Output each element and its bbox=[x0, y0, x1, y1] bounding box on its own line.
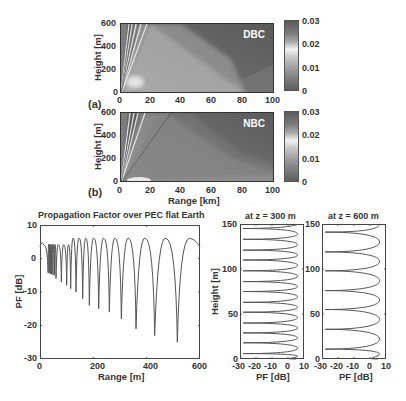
y-tick-pf: -20 bbox=[24, 320, 37, 330]
x-tick-a: 40 bbox=[175, 95, 185, 105]
colorbar-a-tick: 0 bbox=[302, 86, 307, 96]
y-tick-a: 400 bbox=[101, 41, 116, 51]
y-axis-label-b: Height [m] bbox=[92, 117, 103, 177]
pf-range-curve bbox=[40, 225, 200, 359]
x-axis-label-z600: PF [dB] bbox=[339, 371, 373, 382]
y-axis-label-pf: PF [dB] bbox=[13, 270, 24, 314]
colorbar-a bbox=[284, 20, 299, 91]
x-tick-pf: 0 bbox=[37, 361, 42, 371]
y-axis-label-z300: Height [m] bbox=[209, 262, 220, 322]
y-tick-z300: 100 bbox=[222, 264, 237, 274]
x-tick-b: 0 bbox=[117, 185, 122, 195]
x-tick-a: 20 bbox=[145, 95, 155, 105]
chart-title-z600: at z = 600 m bbox=[328, 211, 379, 221]
x-tick-a: 100 bbox=[265, 95, 280, 105]
colorbar-b-tick: 0 bbox=[302, 177, 307, 187]
x-tick-a: 0 bbox=[117, 95, 122, 105]
colorbar-b-tick: 0.03 bbox=[302, 107, 320, 117]
y-axis-label-a: Height [m] bbox=[92, 28, 103, 88]
y-tick-pf: -30 bbox=[24, 353, 37, 363]
y-tick-z300: 50 bbox=[228, 309, 238, 319]
panel-label-b: (b) bbox=[88, 186, 102, 198]
x-tick-z600: -10 bbox=[346, 361, 359, 371]
x-tick-z600: 10 bbox=[381, 361, 391, 371]
x-tick-pf: 400 bbox=[143, 361, 158, 371]
x-tick-pf: 200 bbox=[90, 361, 105, 371]
x-tick-a: 80 bbox=[237, 95, 247, 105]
x-tick-z600: -30 bbox=[314, 361, 327, 371]
annotation-nbc: NBC bbox=[243, 118, 265, 129]
y-tick-z600: 100 bbox=[305, 264, 320, 274]
chart-title-z300: at z = 300 m bbox=[245, 211, 296, 221]
y-tick-b: 600 bbox=[101, 107, 116, 117]
y-tick-pf: 10 bbox=[27, 220, 37, 230]
y-tick-z300: 150 bbox=[222, 219, 237, 229]
x-tick-z300: 0 bbox=[285, 361, 290, 371]
y-tick-pf: -10 bbox=[24, 286, 37, 296]
y-tick-z600: 150 bbox=[305, 219, 320, 229]
x-axis-label-pf: Range [m] bbox=[98, 371, 144, 382]
x-axis-label-z300: PF [dB] bbox=[256, 371, 290, 382]
x-tick-z300: -30 bbox=[232, 361, 245, 371]
colorbar-b bbox=[284, 111, 299, 182]
chart-title-pf-range: Propagation Factor over PEC flat Earth bbox=[38, 210, 205, 220]
colorbar-a-tick: 0.03 bbox=[302, 16, 320, 26]
colorbar-b-tick: 0.01 bbox=[302, 154, 320, 164]
heatmap-dbc: DBC bbox=[120, 23, 274, 93]
x-axis-label-b: Range [km] bbox=[168, 195, 220, 206]
x-tick-z300: 10 bbox=[299, 361, 309, 371]
colorbar-a-tick: 0.01 bbox=[302, 63, 320, 73]
heatmap-nbc: NBC bbox=[120, 112, 274, 182]
x-tick-z300: -10 bbox=[264, 361, 277, 371]
x-tick-z600: 0 bbox=[367, 361, 372, 371]
y-tick-b: 200 bbox=[101, 153, 116, 163]
y-tick-a: 200 bbox=[101, 64, 116, 74]
pf-height-curve-z300 bbox=[240, 224, 304, 359]
y-tick-b: 400 bbox=[101, 130, 116, 140]
x-tick-b: 60 bbox=[206, 185, 216, 195]
x-tick-z300: -20 bbox=[248, 361, 261, 371]
pf-height-curve-z600 bbox=[322, 224, 386, 359]
annotation-dbc: DBC bbox=[243, 29, 265, 40]
x-tick-b: 20 bbox=[145, 185, 155, 195]
y-tick-pf: 0 bbox=[31, 253, 36, 263]
x-tick-pf: 600 bbox=[192, 361, 207, 371]
panel-label-a: (a) bbox=[88, 98, 101, 110]
colorbar-a-tick: 0.02 bbox=[302, 39, 320, 49]
x-tick-b: 80 bbox=[237, 185, 247, 195]
y-tick-a: 600 bbox=[101, 18, 116, 28]
y-tick-z600: 50 bbox=[310, 309, 320, 319]
x-tick-z600: -20 bbox=[330, 361, 343, 371]
x-tick-b: 40 bbox=[175, 185, 185, 195]
colorbar-b-tick: 0.02 bbox=[302, 130, 320, 140]
x-tick-a: 60 bbox=[206, 95, 216, 105]
x-tick-b: 100 bbox=[265, 185, 280, 195]
